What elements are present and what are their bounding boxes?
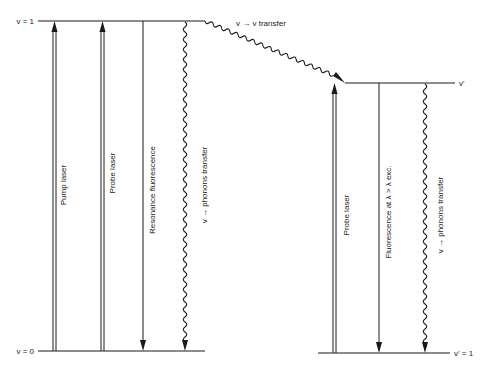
resonance-fluorescence-arrow	[140, 21, 146, 351]
label-pump-laser: Pump laser	[59, 164, 68, 205]
label-phonon-transfer-left: v → phonons transfer	[200, 146, 209, 223]
label-fluorescence-right: Fluorescence at λ > λ exc.	[384, 165, 393, 258]
arrowhead-diagonal-icon	[333, 72, 345, 83]
arrowhead-down-icon	[140, 340, 146, 351]
probe-laser-arrow-left	[100, 21, 106, 351]
arrowhead-up-icon	[52, 21, 58, 32]
energy-level-diagram: v = 1 v = 0 v' v' = 1 Pump laser Probe l…	[0, 0, 491, 369]
level-label-vprime: v'	[459, 79, 465, 88]
arrowhead-up-icon	[100, 21, 106, 32]
phonon-transfer-wavy-arrow-left	[182, 22, 188, 351]
v-v-transfer-wavy-arrow	[205, 21, 345, 83]
label-resonance-fluorescence: Resonance fluorescence	[148, 145, 157, 234]
arrowhead-down-icon	[422, 342, 428, 353]
level-label-v1: v = 1	[16, 17, 34, 26]
fluorescence-arrow-right	[376, 83, 382, 353]
label-probe-laser-right: Probe laser	[342, 194, 351, 235]
arrowhead-down-icon	[182, 340, 188, 351]
pump-laser-arrow	[52, 21, 58, 351]
phonon-transfer-wavy-arrow-right	[422, 84, 428, 353]
level-label-v0: v = 0	[16, 347, 34, 356]
label-v-v-transfer: v → v transfer	[236, 19, 286, 28]
label-probe-laser-left: Probe laser	[108, 152, 117, 193]
arrowhead-down-icon	[376, 342, 382, 353]
probe-laser-arrow-right	[332, 83, 338, 353]
arrowhead-up-icon	[332, 83, 338, 94]
level-label-vprime1: v' = 1	[454, 349, 474, 358]
label-phonon-transfer-right: v → phonons transfer	[436, 176, 445, 253]
